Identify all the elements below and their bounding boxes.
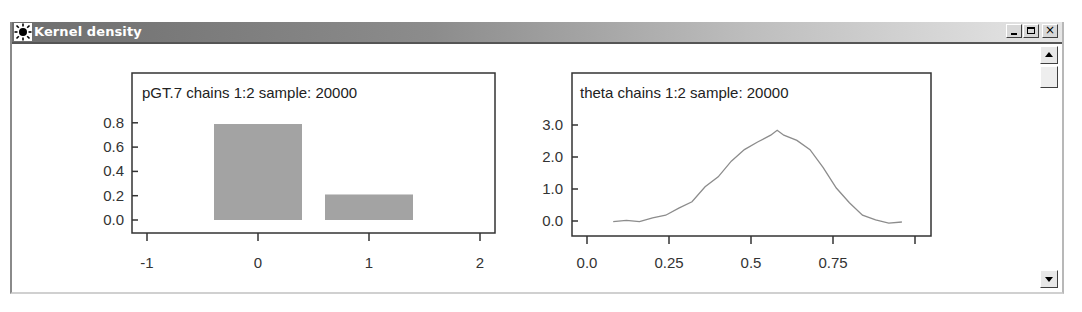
- y-tick-label: 1.0: [542, 180, 563, 197]
- y-tick-label: 0.2: [103, 187, 124, 204]
- y-tick-label: 0.0: [103, 211, 124, 228]
- y-tick-label: 0.6: [103, 138, 124, 155]
- x-tick-label: -1: [140, 254, 153, 271]
- x-tick-label: 0.75: [818, 254, 847, 271]
- y-tick-label: 3.0: [542, 116, 563, 133]
- pgt7-density-plot: pGT.7 chains 1:2 sample: 20000 0.00.20.4…: [103, 73, 495, 271]
- plot-title: theta chains 1:2 sample: 20000: [580, 84, 788, 101]
- density-bar: [325, 194, 413, 220]
- x-tick-label: 0.5: [741, 254, 762, 271]
- density-bar: [214, 124, 302, 220]
- density-curve: [613, 130, 902, 223]
- x-tick-label: 0.0: [577, 254, 598, 271]
- y-tick-label: 2.0: [542, 148, 563, 165]
- plots-canvas: pGT.7 chains 1:2 sample: 20000 0.00.20.4…: [0, 0, 1082, 312]
- x-tick-label: 2: [476, 254, 484, 271]
- x-tick-label: 1: [365, 254, 373, 271]
- x-tick-label: 0.25: [654, 254, 683, 271]
- plot-title: pGT.7 chains 1:2 sample: 20000: [142, 84, 357, 101]
- x-tick-label: 0: [254, 254, 262, 271]
- y-tick-label: 0.0: [542, 212, 563, 229]
- y-tick-label: 0.8: [103, 114, 124, 131]
- theta-density-plot: theta chains 1:2 sample: 20000 0.01.02.0…: [542, 73, 931, 271]
- y-tick-label: 0.4: [103, 162, 124, 179]
